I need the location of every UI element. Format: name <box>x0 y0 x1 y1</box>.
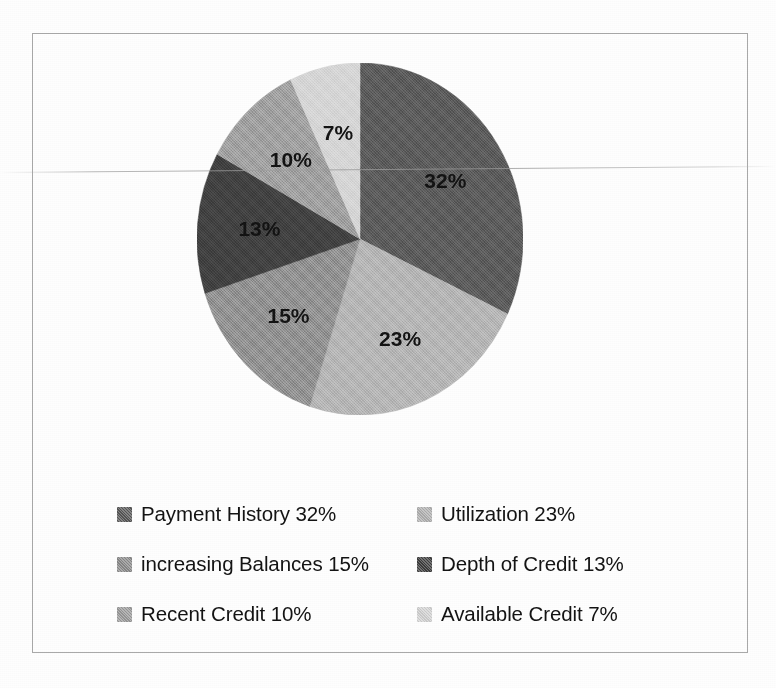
pie-data-label: 15% <box>267 304 309 327</box>
pie-chart: 32%23%15%13%10%7% <box>197 63 523 415</box>
legend-color-swatch <box>417 557 432 572</box>
legend-item-label: Recent Credit 10% <box>141 602 311 626</box>
legend-item[interactable]: Available Credit 7% <box>417 602 717 626</box>
pie-data-label: 13% <box>238 217 280 240</box>
legend-item[interactable]: Recent Credit 10% <box>117 602 417 626</box>
scanned-page: 32%23%15%13%10%7% Payment History 32%Uti… <box>0 0 776 688</box>
legend-color-swatch <box>417 507 432 522</box>
legend-item[interactable]: increasing Balances 15% <box>117 552 417 576</box>
chart-legend: Payment History 32%Utilization 23%increa… <box>117 489 717 639</box>
pie-data-label: 32% <box>424 169 466 192</box>
legend-item-label: Payment History 32% <box>141 502 336 526</box>
legend-item-label: Depth of Credit 13% <box>441 552 624 576</box>
pie-data-label: 23% <box>379 327 421 350</box>
legend-item-label: Available Credit 7% <box>441 602 618 626</box>
legend-item-label: increasing Balances 15% <box>141 552 369 576</box>
legend-item[interactable]: Utilization 23% <box>417 502 717 526</box>
pie-chart-plot-area: 32%23%15%13%10%7% <box>33 34 749 464</box>
legend-item[interactable]: Depth of Credit 13% <box>417 552 717 576</box>
pie-data-label: 7% <box>323 121 354 144</box>
pie-data-label: 10% <box>270 148 312 171</box>
legend-item[interactable]: Payment History 32% <box>117 502 417 526</box>
legend-color-swatch <box>417 607 432 622</box>
legend-color-swatch <box>117 507 132 522</box>
legend-item-label: Utilization 23% <box>441 502 575 526</box>
legend-color-swatch <box>117 607 132 622</box>
legend-color-swatch <box>117 557 132 572</box>
chart-frame: 32%23%15%13%10%7% Payment History 32%Uti… <box>32 33 748 653</box>
